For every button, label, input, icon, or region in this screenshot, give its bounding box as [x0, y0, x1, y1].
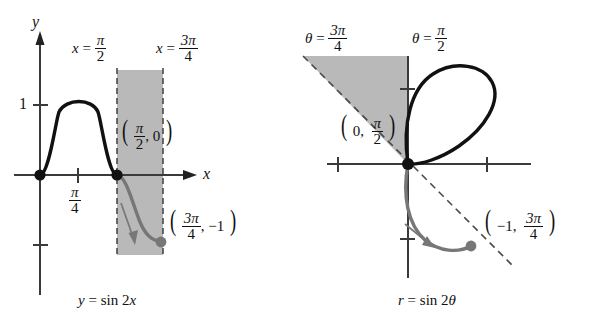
- sine-curve-black: [40, 102, 117, 176]
- band-right-num: 3π: [179, 33, 198, 49]
- ray-vertical-var: θ: [412, 31, 419, 46]
- four-denominator: 4: [69, 201, 81, 216]
- caption-equals: =: [88, 292, 96, 308]
- minimum-x-den: 4: [182, 227, 201, 242]
- x-tick-label-pi-over-four: π 4: [69, 185, 81, 217]
- polar-petal-curve: [406, 66, 495, 164]
- open-paren: (: [341, 113, 347, 136]
- ray-upper-num: 3π: [328, 23, 347, 39]
- band-right-var: x: [156, 41, 163, 56]
- band-left-den: 2: [95, 49, 107, 64]
- close-paren: ): [549, 208, 555, 231]
- ray-vertical-den: 2: [435, 39, 447, 54]
- caption-lhs: y: [78, 292, 85, 308]
- band-left-var: x: [72, 41, 79, 56]
- ray-label-three-pi-over-four: θ = 3π 4: [305, 23, 347, 55]
- rectangular-caption: y = sin 2x: [78, 292, 136, 309]
- pole-r: 0: [353, 124, 361, 139]
- caption-function: sin 2: [420, 292, 449, 308]
- terminal-point-dot: [466, 241, 477, 252]
- rectangular-graph-panel: y x 1 π 4 x = π 2 x = 3π 4 ( π 2 , 0 ): [0, 0, 300, 330]
- polar-gray-highlight-arc: [406, 164, 471, 250]
- x-axis-arrowhead: [183, 170, 197, 180]
- caption-variable: x: [129, 292, 136, 308]
- caption-variable: θ: [449, 292, 456, 308]
- zero-crossing-y: 0: [153, 129, 161, 144]
- band-label-right: x = 3π 4: [156, 33, 198, 65]
- zero-crossing-x-den: 2: [134, 137, 146, 152]
- point-label-pole: ( 0, π 2 ): [339, 113, 397, 147]
- minimum-x-num: 3π: [182, 211, 201, 227]
- close-paren: ): [230, 208, 236, 231]
- open-paren: (: [485, 208, 491, 231]
- zero-crossing-x-num: π: [134, 121, 146, 137]
- close-paren: ): [166, 118, 172, 141]
- rectangular-graph-svg: [0, 0, 300, 330]
- band-right-equals: =: [166, 41, 174, 56]
- y-tick-label-one: 1: [19, 96, 27, 112]
- y-axis-arrowhead: [36, 31, 45, 45]
- point-label-minimum: ( 3π 4 , −1 ): [168, 208, 238, 242]
- point-label-zero-crossing: ( π 2 , 0 ): [120, 118, 174, 152]
- shaded-band: [117, 70, 163, 255]
- ray-vertical-num: π: [435, 23, 447, 39]
- x-axis-label: x: [203, 166, 210, 182]
- pole-theta-den: 2: [372, 132, 384, 147]
- open-paren: (: [170, 208, 176, 231]
- caption-equals: =: [408, 292, 416, 308]
- pole-theta-num: π: [372, 116, 384, 132]
- pole-dot: [402, 158, 414, 170]
- caption-function: sin 2: [101, 292, 130, 308]
- point-minimum-dot: [156, 237, 167, 248]
- open-paren: (: [122, 118, 128, 141]
- caption-lhs: r: [398, 292, 404, 308]
- polar-caption: r = sin 2θ: [398, 292, 456, 309]
- band-right-den: 4: [179, 49, 198, 64]
- ray-label-pi-over-two: θ = π 2: [412, 23, 447, 55]
- band-left-equals: =: [82, 41, 90, 56]
- terminal-theta-den: 4: [524, 227, 543, 242]
- minimum-y: −1: [208, 219, 224, 234]
- ray-upper-den: 4: [328, 39, 347, 54]
- ray-upper-var: θ: [305, 31, 312, 46]
- band-left-num: π: [95, 33, 107, 49]
- ray-vertical-equals: =: [423, 31, 431, 46]
- point-zero-crossing-dot: [111, 169, 122, 180]
- point-label-terminal: ( −1, 3π 4 ): [483, 208, 557, 242]
- pi-numerator: π: [69, 185, 81, 201]
- terminal-theta-num: 3π: [524, 211, 543, 227]
- ray-upper-equals: =: [316, 31, 324, 46]
- terminal-r: −1: [497, 219, 513, 234]
- y-axis-label: y: [32, 14, 39, 30]
- band-label-left: x = π 2: [72, 33, 106, 65]
- polar-graph-panel: θ = 3π 4 θ = π 2 ( 0, π 2 ) ( −1, 3π 4 ): [299, 0, 599, 330]
- point-origin-dot: [34, 169, 45, 180]
- close-paren: ): [389, 113, 395, 136]
